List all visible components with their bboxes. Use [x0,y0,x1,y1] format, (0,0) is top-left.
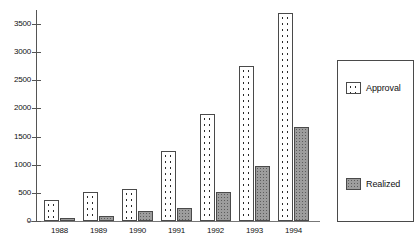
y-tick-label: 1000 [14,161,31,169]
y-tick-label: 1500 [14,133,31,141]
bar-group [239,10,270,221]
y-tick [32,108,41,109]
bar-group [200,10,231,221]
bar-realized-1993 [255,166,270,221]
legend-swatch-realized-icon [346,178,361,190]
y-tick [32,137,41,138]
y-axis-labels: 3500300025002000150010005000 [0,10,31,221]
y-tick-label: 3000 [14,48,31,56]
y-tick [32,80,41,81]
bar-approval-1993 [239,66,254,221]
y-tick-label: 500 [18,189,31,197]
x-tick-label-1994: 1994 [270,226,317,235]
y-tick [32,24,41,25]
legend-item-realized: Realized [346,178,400,190]
x-axis-labels: 1988198919901991199219931994 [36,226,321,240]
bar-group [161,10,192,221]
bar-approval-1992 [200,114,215,221]
bar-approval-1994 [278,13,293,221]
chart-legend: Approval Realized [337,60,414,222]
legend-label-approval: Approval [366,83,401,93]
bar-approval-1988 [44,200,59,221]
x-axis-line [28,221,320,222]
bar-realized-1992 [216,192,231,221]
legend-swatch-approval-icon [346,82,361,94]
bar-chart: 3500300025002000150010005000 19881989199… [0,0,418,245]
bar-approval-1989 [83,192,98,221]
bar-approval-1991 [161,151,176,221]
bar-realized-1988 [60,218,75,221]
y-tick-label: 3500 [14,20,31,28]
legend-label-realized: Realized [366,179,400,189]
y-tick [32,221,41,222]
bar-group [278,10,309,221]
y-tick [32,52,41,53]
y-tick-label: 2000 [14,104,31,112]
y-tick [32,165,41,166]
plot-area [36,10,321,221]
bar-group [44,10,75,221]
bar-realized-1991 [177,208,192,222]
bar-realized-1994 [294,127,309,221]
bar-approval-1990 [122,189,137,221]
bar-group [122,10,153,221]
legend-item-approval: Approval [346,82,401,94]
y-axis-line [36,10,37,222]
y-tick [32,193,41,194]
y-tick-label: 2500 [14,76,31,84]
chart-title [6,0,336,2]
bar-realized-1989 [99,216,114,221]
bar-group [83,10,114,221]
bar-realized-1990 [138,211,153,221]
